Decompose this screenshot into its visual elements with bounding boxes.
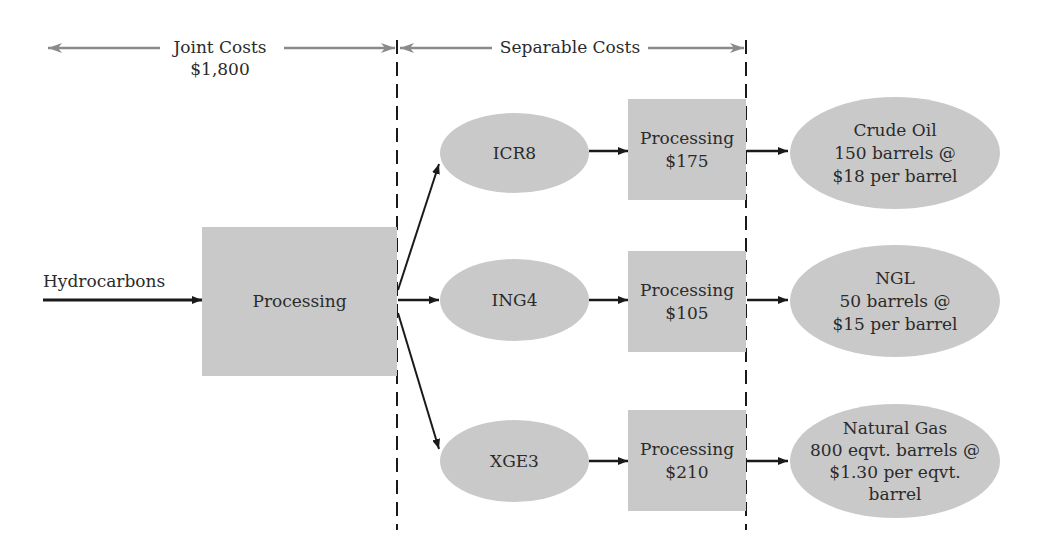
product-ellipse-icr8: ICR8 <box>440 113 589 193</box>
final-product-natural-gas: Natural Gas 800 eqvt. barrels @ $1.30 pe… <box>790 404 1000 518</box>
final-product-name: Crude Oil <box>853 119 936 142</box>
flow-arrow-to-xge3 <box>398 313 439 449</box>
processing-label: Processing <box>640 127 734 150</box>
separable-costs-header: Separable Costs <box>494 36 646 58</box>
final-product-price: $15 per barrel <box>832 313 957 336</box>
joint-costs-header: Joint Costs $1,800 <box>160 36 280 80</box>
final-product-name: NGL <box>875 267 915 290</box>
separable-processing-box-3: Processing $210 <box>628 410 746 511</box>
final-product-quantity: 800 eqvt. barrels @ <box>810 439 980 461</box>
product-name: ICR8 <box>493 142 536 165</box>
final-product-name: Natural Gas <box>843 417 947 439</box>
product-name: XGE3 <box>490 450 539 473</box>
final-product-crude-oil: Crude Oil 150 barrels @ $18 per barrel <box>790 97 1000 209</box>
joint-processing-box: Processing <box>202 227 397 376</box>
final-product-price: $18 per barrel <box>832 165 957 188</box>
product-ellipse-xge3: XGE3 <box>440 420 589 502</box>
processing-cost: $105 <box>665 302 708 325</box>
separable-processing-box-2: Processing $105 <box>628 251 746 352</box>
product-ellipse-ing4: ING4 <box>440 259 589 341</box>
final-product-price-unit: barrel <box>869 483 922 505</box>
separable-processing-box-1: Processing $175 <box>628 99 746 200</box>
processing-cost: $210 <box>665 461 708 484</box>
final-product-quantity: 50 barrels @ <box>840 290 951 313</box>
final-product-ngl: NGL 50 barrels @ $15 per barrel <box>790 245 1000 357</box>
processing-label: Processing <box>640 279 734 302</box>
input-label: Hydrocarbons <box>43 270 165 292</box>
processing-label: Processing <box>640 438 734 461</box>
final-product-price: $1.30 per eqvt. <box>829 461 960 483</box>
processing-cost: $175 <box>665 150 708 173</box>
product-name: ING4 <box>492 289 538 312</box>
flow-arrow-to-icr8 <box>398 164 439 290</box>
joint-costs-label: Joint Costs <box>160 36 280 58</box>
joint-costs-amount: $1,800 <box>160 58 280 80</box>
final-product-quantity: 150 barrels @ <box>834 142 956 165</box>
separable-costs-label: Separable Costs <box>494 36 646 58</box>
joint-processing-label: Processing <box>252 290 346 313</box>
